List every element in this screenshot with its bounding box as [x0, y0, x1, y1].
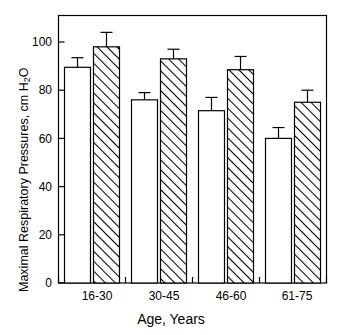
bar: [65, 67, 91, 283]
bar: [199, 111, 225, 283]
chart-figure: Maximal Respiratory Pressures, cm H2O 10…: [0, 0, 342, 335]
x-tick-label-2: 46-60: [196, 290, 266, 302]
bar: [228, 70, 254, 283]
x-tick-label-3: 61-75: [262, 290, 332, 302]
x-axis-label: Age, Years: [0, 312, 342, 326]
plot-area: [0, 0, 342, 335]
bar: [94, 47, 120, 283]
bar: [295, 102, 321, 283]
bar-group: [65, 47, 321, 283]
bar: [132, 100, 158, 283]
x-tick-label-1: 30-45: [129, 290, 199, 302]
bar: [266, 138, 292, 283]
bar: [161, 59, 187, 283]
x-tick-label-0: 16-30: [62, 290, 132, 302]
y-axis-ticks: [59, 42, 65, 283]
